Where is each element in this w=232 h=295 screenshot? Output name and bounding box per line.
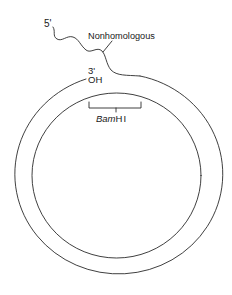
bamhi-label: BamHI: [96, 113, 127, 124]
nonhomologous-label: Nonhomologous: [88, 31, 155, 41]
bamhi-label-italic: Bam: [96, 113, 116, 124]
nonhomologous-pointer: [103, 41, 112, 52]
bamhi-label-roman: HI: [116, 113, 128, 124]
outer-strand-arc: [15, 76, 223, 274]
plasmid-diagram: 5' Nonhomologous 3' OH BamHI: [0, 0, 232, 295]
bamhi-site-bracket: [89, 102, 141, 112]
hydroxyl-label: OH: [88, 74, 102, 85]
five-prime-label: 5': [44, 18, 52, 29]
